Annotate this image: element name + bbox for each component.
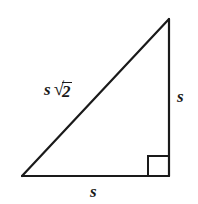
hypotenuse-label: s √2	[44, 78, 72, 97]
square-root-icon: √2	[53, 78, 72, 97]
right-triangle-drawing	[0, 0, 198, 204]
geometry-figure: s √2 s s	[0, 0, 198, 204]
bottom-leg-label: s	[90, 183, 97, 200]
right-angle-marker-icon	[148, 156, 169, 176]
hypotenuse-variable: s	[44, 81, 51, 98]
right-leg-label: s	[177, 88, 184, 105]
radicand-value: 2	[62, 82, 72, 100]
